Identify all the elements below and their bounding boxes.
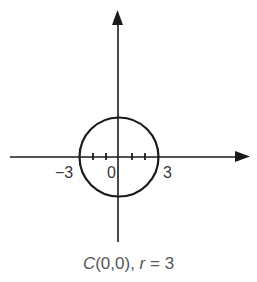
x-axis-arrow-icon (235, 151, 250, 162)
caption-center-symbol: C (83, 254, 95, 273)
caption-radius-eq: = 3 (145, 254, 174, 273)
caption-center-coords: (0,0), (95, 254, 135, 273)
origin-label: 0 (107, 164, 116, 181)
x-min-label: −3 (55, 164, 73, 181)
y-axis-arrow-icon (112, 10, 123, 25)
circle-diagram: −3 0 3 (0, 0, 257, 282)
figure-caption: C(0,0), r = 3 (0, 254, 257, 274)
x-max-label: 3 (163, 164, 172, 181)
